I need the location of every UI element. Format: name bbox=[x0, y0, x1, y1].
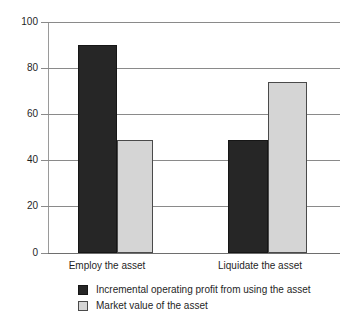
y-axis-label-40: 40 bbox=[0, 155, 38, 165]
plot-area bbox=[48, 22, 340, 253]
bar-chart: 100 80 60 40 20 0 Employ the asset Liqui… bbox=[0, 0, 357, 331]
y-axis-tick-20 bbox=[41, 206, 48, 207]
legend-swatch-dark-icon bbox=[78, 285, 88, 295]
legend-item-incremental-profit: Incremental operating profit from using … bbox=[78, 283, 311, 297]
bar-employ-incremental-profit bbox=[78, 45, 117, 253]
y-axis-tick-100 bbox=[41, 22, 48, 23]
y-axis-label-0: 0 bbox=[0, 248, 38, 258]
gridline-100 bbox=[48, 22, 340, 23]
y-axis-tick-0 bbox=[41, 253, 48, 254]
chart-legend: Incremental operating profit from using … bbox=[78, 283, 311, 315]
legend-label-market-value: Market value of the asset bbox=[96, 300, 208, 312]
legend-label-incremental-profit: Incremental operating profit from using … bbox=[96, 284, 311, 296]
gridline-0 bbox=[48, 253, 340, 254]
legend-item-market-value: Market value of the asset bbox=[78, 299, 311, 313]
y-axis-label-20: 20 bbox=[0, 201, 38, 211]
category-label-liquidate: Liquidate the asset bbox=[198, 260, 322, 272]
y-axis-tick-60 bbox=[41, 114, 48, 115]
y-axis-label-60: 60 bbox=[0, 109, 38, 119]
y-axis-label-80: 80 bbox=[0, 63, 38, 73]
bar-employ-market-value bbox=[117, 140, 153, 253]
y-axis-tick-80 bbox=[41, 68, 48, 69]
y-axis-label-100: 100 bbox=[0, 17, 38, 27]
bar-liquidate-incremental-profit bbox=[228, 140, 268, 253]
category-label-employ: Employ the asset bbox=[48, 260, 166, 272]
y-axis-tick-40 bbox=[41, 160, 48, 161]
bar-liquidate-market-value bbox=[268, 82, 307, 253]
legend-swatch-light-icon bbox=[78, 301, 88, 311]
